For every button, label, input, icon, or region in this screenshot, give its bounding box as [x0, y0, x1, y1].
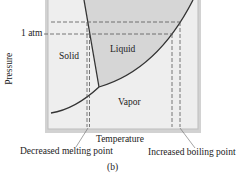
boiling-annotation: Increased boiling point: [148, 148, 236, 158]
solid-label: Solid: [59, 52, 79, 62]
y-axis-label: Pressure: [5, 49, 15, 89]
melting-annotation: Decreased melting point: [20, 147, 113, 157]
liquid-label: Liquid: [110, 45, 135, 55]
pressure-1atm-label: 1 atm: [21, 29, 42, 39]
vapor-label: Vapor: [118, 98, 141, 108]
x-axis-label: Temperature: [96, 135, 144, 145]
figure-caption: (b): [107, 163, 118, 173]
